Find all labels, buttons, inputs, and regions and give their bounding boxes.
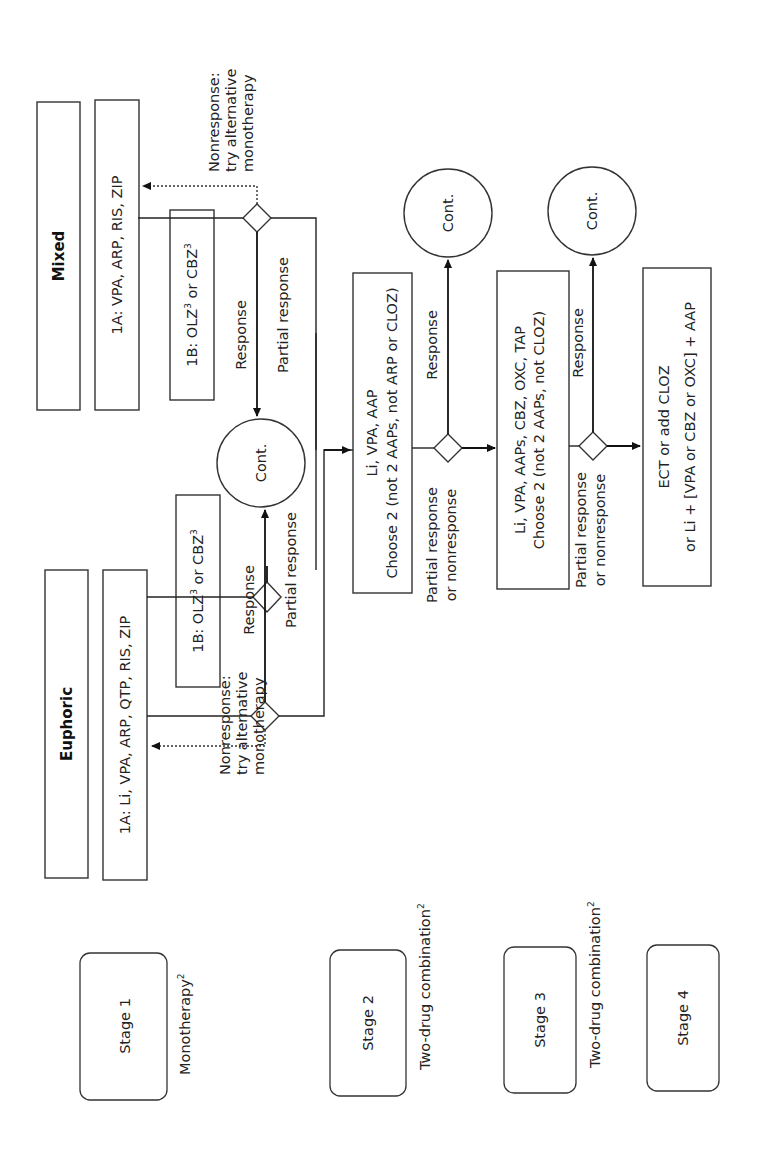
svg-text:Euphoric: Euphoric (58, 687, 76, 761)
stage2-label: Stage 2 (360, 995, 376, 1051)
svg-text:Response: Response (424, 310, 440, 380)
mixed-nonresponse-label: Nonresponse: try alternative monotherapy (206, 64, 256, 172)
euphoric-1b-box: 1B: OLZ3 or CBZ3 (176, 495, 220, 687)
mixed-response-label: Response (233, 300, 249, 370)
stage4-box-line1: ECT or add CLOZ (656, 365, 672, 488)
svg-text:Cont.: Cont. (584, 192, 600, 230)
euphoric-decision-diamond (253, 582, 281, 612)
svg-text:Partial response: Partial response (573, 472, 589, 588)
mixed-header-box: Mixed (37, 102, 80, 410)
mixed-partial-label: Partial response (275, 257, 291, 373)
stage1-label: Stage 1 (117, 998, 133, 1054)
euphoric-header-box: Euphoric (45, 570, 88, 878)
stage3-description: Two-drug combination2 (586, 901, 603, 1069)
stage2-treatment-box (353, 273, 412, 593)
svg-text:Partial response: Partial response (424, 487, 440, 603)
svg-text:or nonresponse: or nonresponse (443, 489, 459, 602)
svg-text:Cont.: Cont. (253, 444, 269, 482)
svg-text:Mixed: Mixed (50, 231, 68, 282)
stage4-treatment-box (643, 268, 711, 586)
stage3-box-line1: Li, VPA, AAPs, CBZ, OXC, TAP (512, 326, 528, 534)
stage2-box-line1: Li, VPA, AAP (364, 389, 380, 476)
stage3-decision-diamond (579, 432, 607, 460)
svg-text:or nonresponse: or nonresponse (592, 474, 608, 587)
stage3-box-line2: Choose 2 (not 2 AAPs, not CLOZ) (531, 311, 547, 549)
euphoric-response-label: Response (241, 565, 257, 635)
svg-text:1A: VPA, ARP, RIS, ZIP: 1A: VPA, ARP, RIS, ZIP (109, 175, 125, 334)
mixed-1b-box: 1B: OLZ3 or CBZ3 (170, 210, 214, 400)
mixed-decision-diamond (243, 204, 271, 232)
euphoric-1a-box: 1A: Li, VPA, ARP, QTP, RIS, ZIP (103, 570, 147, 880)
euphoric-partial-label: Partial response (283, 512, 299, 628)
bipolar-treatment-flowchart: Euphoric Mixed 1A: Li, VPA, ARP, QTP, RI… (0, 0, 759, 1160)
svg-text:1A: Li, VPA, ARP, QTP, RIS, ZI: 1A: Li, VPA, ARP, QTP, RIS, ZIP (117, 615, 133, 834)
stage1-description: Monotherapy2 (176, 973, 193, 1075)
euphoric-nonresponse-label: Nonresponse: try alternative monotherapy (217, 667, 267, 775)
stage2-box-line2: Choose 2 (not 2 AAPs, not ARP or CLOZ) (384, 287, 400, 578)
stage2-decision-diamond (434, 434, 462, 462)
svg-text:Cont.: Cont. (440, 194, 456, 232)
stage2-description: Two-drug combination2 (416, 903, 433, 1071)
stage4-box-line2: or Li + [VPA or CBZ or OXC] + AAP (682, 302, 698, 552)
stage3-label: Stage 3 (532, 992, 548, 1048)
mixed-1a-box: 1A: VPA, ARP, RIS, ZIP (95, 100, 139, 410)
stage4-label: Stage 4 (675, 990, 691, 1046)
svg-text:Response: Response (570, 308, 586, 378)
